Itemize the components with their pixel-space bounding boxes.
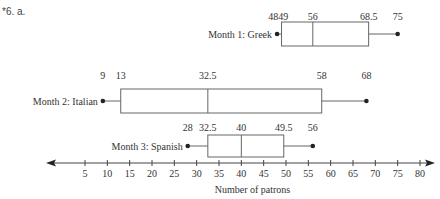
x-tick-label: 55 <box>303 168 313 179</box>
series-label: Month 1: Greek <box>208 29 272 40</box>
value-label: 9 <box>100 70 105 81</box>
x-tick-label: 35 <box>214 168 224 179</box>
value-label: 13 <box>116 70 126 81</box>
x-tick-label: 30 <box>192 168 202 179</box>
series-label: Month 3: Spanish <box>112 141 183 152</box>
x-tick-label: 75 <box>393 168 403 179</box>
value-label: 58 <box>317 70 327 81</box>
series-label: Month 2: Italian <box>33 96 98 107</box>
value-label: 32.5 <box>199 70 217 81</box>
x-tick-label: 45 <box>259 168 269 179</box>
x-tick-label: 15 <box>125 168 135 179</box>
value-label: 4849 <box>268 11 288 22</box>
x-tick-label: 25 <box>169 168 179 179</box>
max-point <box>364 99 369 104</box>
max-point <box>395 32 400 37</box>
value-label: 56 <box>308 122 318 133</box>
x-tick-label: 60 <box>326 168 336 179</box>
x-axis-label: Number of patrons <box>215 184 291 195</box>
value-label: 40 <box>236 122 246 133</box>
x-tick-label: 5 <box>83 168 88 179</box>
x-tick-label: 80 <box>415 168 425 179</box>
min-point <box>101 99 106 104</box>
max-point <box>311 144 316 149</box>
box <box>121 89 322 113</box>
x-tick-label: 65 <box>348 168 358 179</box>
value-label: 28 <box>183 122 193 133</box>
boxplot-chart: Month 1: Greek48495668.575Month 2: Itali… <box>0 0 440 199</box>
value-label: 56 <box>308 11 318 22</box>
x-tick-label: 40 <box>236 168 246 179</box>
min-point <box>185 144 190 149</box>
x-tick-label: 10 <box>102 168 112 179</box>
value-label: 68 <box>361 70 371 81</box>
box <box>208 135 284 157</box>
value-label: 49.5 <box>275 122 293 133</box>
min-point <box>275 32 280 37</box>
x-tick-label: 20 <box>147 168 157 179</box>
x-tick-label: 70 <box>370 168 380 179</box>
value-label: 32.5 <box>199 122 217 133</box>
value-label: 75 <box>393 11 403 22</box>
value-label: 68.5 <box>360 11 378 22</box>
box <box>282 22 369 46</box>
x-tick-label: 50 <box>281 168 291 179</box>
